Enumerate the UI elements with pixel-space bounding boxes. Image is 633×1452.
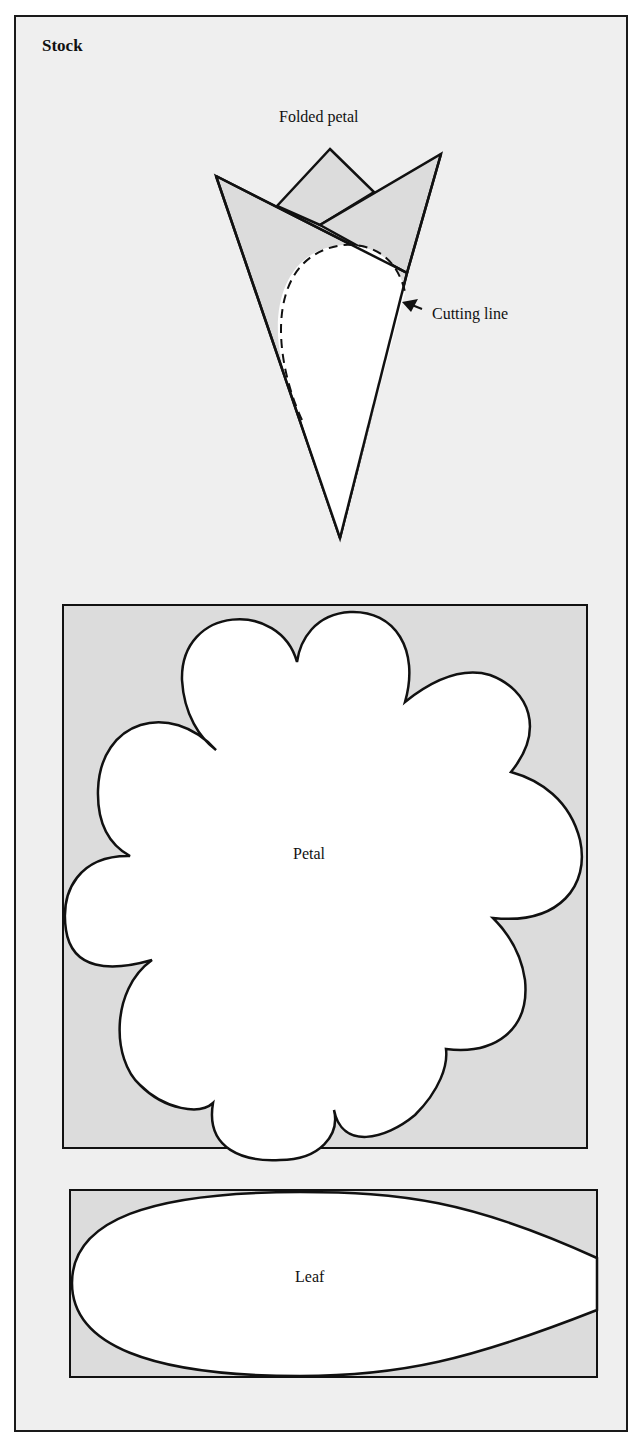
petal-label: Petal (293, 845, 325, 863)
leaf-label: Leaf (295, 1268, 324, 1286)
stock-diagrams (0, 0, 633, 1452)
leaf-diagram (70, 1190, 597, 1377)
petal-diagram (63, 605, 587, 1160)
folded-petal-diagram (216, 149, 441, 538)
